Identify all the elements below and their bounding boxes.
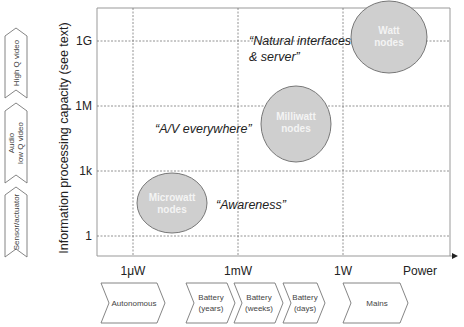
annotation-av-everywhere: “A/V everywhere”: [155, 122, 252, 136]
node-milliwatt: Milliwatt nodes: [261, 86, 331, 162]
chevron-battery-weeks: Battery (weeks): [234, 283, 283, 323]
chevron-mains-label: Mains: [366, 299, 387, 308]
milliwatt-label-line2: nodes: [281, 123, 311, 134]
x-tick-1mW: 1mW: [224, 264, 253, 278]
microwatt-label-line1: Microwatt: [149, 192, 196, 203]
chevron-shape: [186, 283, 235, 323]
chevron-shape: [283, 283, 325, 323]
x-tick-1uW: 1μW: [121, 264, 147, 278]
bottom-chevrons: Autonomous Battery (years) Battery (week…: [101, 283, 408, 323]
chevron-battery-weeks-line1: Battery: [246, 293, 271, 302]
chevron-audio-low-q-video: Audio low Q video: [5, 103, 27, 183]
microwatt-ellipse: [137, 173, 207, 233]
annotation-natural-line2: & server”: [249, 50, 301, 64]
annotation-natural-line1: “Natural interfaces: [249, 34, 351, 48]
power-capacity-diagram: 1G 1M 1k 1 Information processing capaci…: [0, 0, 464, 327]
watt-label-line2: nodes: [374, 37, 404, 48]
milliwatt-label-line1: Milliwatt: [276, 111, 316, 122]
chevron-shape: [234, 283, 283, 323]
y-tick-1M: 1M: [75, 99, 92, 113]
chevron-battery-years: Battery (years): [186, 283, 235, 323]
x-tick-1W: 1W: [334, 264, 353, 278]
node-watt: Watt nodes: [351, 1, 427, 73]
chevron-sensor-label: Sensor/actuator: [12, 193, 21, 250]
watt-label-line1: Watt: [378, 25, 400, 36]
y-axis-label: Information processing capacity (see tex…: [57, 22, 71, 253]
chevron-battery-days: Battery (days): [283, 283, 325, 323]
chevron-battery-years-line1: Battery: [198, 293, 223, 302]
y-ticks: 1G 1M 1k 1: [75, 34, 93, 243]
x-axis-arrow-icon: [452, 253, 458, 259]
node-microwatt: Microwatt nodes: [137, 173, 207, 233]
chevron-high-q-video: High Q video: [5, 28, 27, 98]
y-tick-1G: 1G: [76, 34, 92, 48]
chevron-sensor-actuator: Sensor/actuator: [5, 187, 27, 257]
chevron-high-q-label: High Q video: [12, 39, 21, 86]
chevron-audio-label-line1: Audio: [7, 132, 16, 153]
microwatt-label-line2: nodes: [157, 204, 187, 215]
x-ticks: 1μW 1mW 1W Power: [121, 264, 437, 278]
annotation-awareness: “Awareness”: [216, 198, 287, 212]
chevron-battery-years-line2: (years): [199, 304, 224, 313]
chevron-battery-days-line1: Battery: [292, 293, 317, 302]
chevron-battery-days-line2: (days): [294, 304, 317, 313]
x-axis-label: Power: [403, 264, 437, 278]
left-chevrons: High Q video Audio low Q video Sensor/ac…: [5, 28, 27, 257]
y-tick-1: 1: [85, 229, 92, 243]
chevron-mains: Mains: [343, 283, 408, 323]
chevron-battery-weeks-line2: (weeks): [245, 304, 273, 313]
y-tick-1k: 1k: [79, 164, 93, 178]
chevron-audio-label-line2: low Q video: [16, 122, 25, 164]
chevron-autonomous: Autonomous: [101, 283, 165, 323]
chevron-autonomous-label: Autonomous: [112, 299, 157, 308]
